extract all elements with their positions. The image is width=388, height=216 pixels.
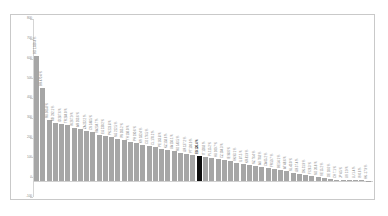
y-axis-tick-mark bbox=[30, 138, 33, 139]
bar bbox=[216, 159, 221, 181]
bar bbox=[59, 124, 64, 181]
y-axis-tick-mark bbox=[30, 98, 33, 99]
bar-value-label: US 2.9 % bbox=[346, 167, 349, 179]
y-axis-tick-mark bbox=[30, 118, 33, 119]
bar-value-label: ZA 252.2 % bbox=[84, 115, 87, 129]
bar-value-label: PH 190.6 % bbox=[134, 126, 137, 141]
bar bbox=[322, 178, 327, 181]
bar-column: SA 234.7 % bbox=[97, 19, 102, 181]
bar-value-label: PE 163.8 % bbox=[159, 132, 162, 147]
bar-value-label: SA 234.7 % bbox=[96, 118, 99, 133]
bar bbox=[84, 131, 89, 181]
bar bbox=[272, 169, 277, 181]
bar bbox=[266, 168, 271, 181]
bar-column: IS 0.6 % bbox=[359, 19, 364, 181]
bar-value-label: PK 223.8 % bbox=[109, 120, 112, 135]
bar-value-label: TH 198.0 % bbox=[127, 125, 130, 140]
y-axis-tick-mark bbox=[30, 19, 33, 20]
bar bbox=[353, 180, 358, 181]
bar bbox=[284, 171, 289, 181]
bar-value-label: NG 212.5 % bbox=[115, 122, 118, 137]
bar-column: EG 230.2 % bbox=[103, 19, 108, 181]
bar-column: BR 470.4 % bbox=[40, 19, 45, 181]
bar bbox=[303, 175, 308, 181]
bar-column: TR 284.0 % bbox=[65, 19, 70, 181]
bar bbox=[53, 123, 58, 181]
bar-column: RO 143.5 % bbox=[178, 19, 183, 181]
bar bbox=[328, 179, 333, 181]
bar-value-label: AU 70.8 % bbox=[259, 152, 262, 165]
bar-value-label: BD 1,030.4 % bbox=[34, 37, 37, 54]
bar-column: SE 15.2 % bbox=[322, 19, 327, 181]
bar-column: RU 305.8 % bbox=[47, 19, 52, 181]
bar-value-label: RU 305.8 % bbox=[46, 103, 49, 118]
bar-value-label: IT 120.8 % bbox=[203, 142, 206, 155]
bar-value-label: FI 26.3 % bbox=[309, 162, 312, 174]
bar-value-label: SK 93.1 % bbox=[234, 147, 237, 160]
bar-value-label: CN 248.5 % bbox=[90, 115, 93, 130]
bar-value-label: FR 59.7 % bbox=[271, 154, 274, 167]
bar bbox=[178, 153, 183, 181]
bar bbox=[341, 180, 346, 181]
bar-value-label: PT 130.9 % bbox=[190, 139, 193, 154]
bar bbox=[147, 146, 152, 181]
bar bbox=[297, 174, 302, 181]
bar bbox=[128, 142, 133, 181]
bar bbox=[309, 176, 314, 181]
bar-value-label: CH 7.1 % bbox=[334, 166, 337, 178]
bar-column: PK 223.8 % bbox=[109, 19, 114, 181]
bar-column: CH 7.1 % bbox=[334, 19, 339, 181]
bar-value-label: CL 170.2 % bbox=[152, 131, 155, 146]
bar bbox=[366, 181, 371, 182]
bar-column: IT 120.8 % bbox=[203, 19, 208, 181]
bar bbox=[134, 143, 139, 181]
bar-column: VN 205.2 % bbox=[122, 19, 127, 181]
bar-value-label: BR 470.4 % bbox=[40, 71, 43, 86]
bar-value-label: UA 150.1 % bbox=[171, 135, 174, 150]
y-axis-tick-mark bbox=[30, 59, 33, 60]
bar-value-label: KZ 158.6 % bbox=[165, 133, 168, 148]
bar bbox=[115, 139, 120, 181]
bar bbox=[234, 163, 239, 181]
bar bbox=[78, 129, 83, 181]
bar-value-label: CA 65.2 % bbox=[265, 153, 268, 166]
zero-baseline bbox=[33, 181, 373, 182]
bar-value-label: VN 205.2 % bbox=[121, 124, 124, 139]
bar-column: DK 31.9 % bbox=[303, 19, 308, 181]
y-axis-tick-mark bbox=[30, 78, 33, 79]
bar bbox=[40, 88, 45, 181]
bar bbox=[291, 173, 296, 182]
bar-value-label: TR 284.0 % bbox=[65, 108, 68, 123]
bar-column: UA 150.1 % bbox=[172, 19, 177, 181]
bar-value-label: GB 37.4 % bbox=[296, 158, 299, 172]
bar-value-label: MX 292.1 % bbox=[52, 106, 55, 121]
bar-column: AR 263.6 % bbox=[78, 19, 83, 181]
bar bbox=[109, 137, 114, 181]
bar-value-label: IN 267.9 % bbox=[71, 112, 74, 126]
bar-value-label: HK -17.9 % bbox=[365, 165, 368, 179]
bar bbox=[334, 180, 339, 181]
bar-column: GR 137.2 % bbox=[184, 19, 189, 181]
bar-column: ID 287.6 % bbox=[59, 19, 64, 181]
bar-value-label: CO 176.5 % bbox=[146, 129, 149, 144]
bar-column: NL 43.0 % bbox=[291, 19, 296, 181]
bar-value-label: MY 182.4 % bbox=[140, 128, 143, 143]
bar-value-label: KR 81.9 % bbox=[246, 149, 249, 162]
bar-value-label: GR 137.2 % bbox=[184, 137, 187, 152]
bar-value-label: HU 109.7 % bbox=[215, 142, 218, 157]
bar-column: JP 4.5 % bbox=[341, 19, 346, 181]
bar-value-label: NO 20.8 % bbox=[315, 161, 318, 175]
bar-value-label: NZ 76.4 % bbox=[253, 151, 256, 164]
bar bbox=[184, 154, 189, 181]
bar bbox=[203, 157, 208, 181]
bar bbox=[347, 180, 352, 181]
bar bbox=[165, 150, 170, 181]
bar bbox=[278, 170, 283, 181]
bar-column: MY 182.4 % bbox=[140, 19, 145, 181]
bar-column: NG 212.5 % bbox=[115, 19, 120, 181]
bar bbox=[153, 147, 158, 181]
y-axis-tick-mark bbox=[30, 157, 33, 158]
bar-column: PE 163.8 % bbox=[159, 19, 164, 181]
bar-value-label: ID 287.6 % bbox=[59, 108, 62, 122]
bar bbox=[140, 145, 145, 181]
